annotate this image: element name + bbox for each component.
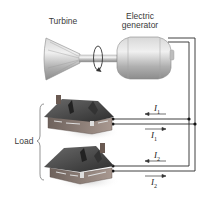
current-label-i1-top: I1 — [154, 103, 160, 115]
wire-junctions — [112, 117, 197, 172]
load-brace — [37, 104, 44, 180]
generator-label-line2: generator — [118, 21, 162, 30]
house-2 — [44, 143, 120, 190]
current-arrows — [145, 113, 166, 178]
house-1 — [44, 95, 120, 140]
current-label-i2-bottom: I2 — [151, 177, 157, 189]
power-distribution-diagram — [0, 0, 205, 200]
current-label-i1-bottom: I1 — [151, 130, 157, 142]
load-label: Load — [13, 137, 35, 146]
electric-generator — [117, 37, 174, 79]
turbine — [44, 38, 80, 80]
turbine-label: Turbine — [44, 17, 82, 26]
shaft — [79, 55, 117, 62]
current-label-i2-top: I2 — [154, 150, 160, 162]
